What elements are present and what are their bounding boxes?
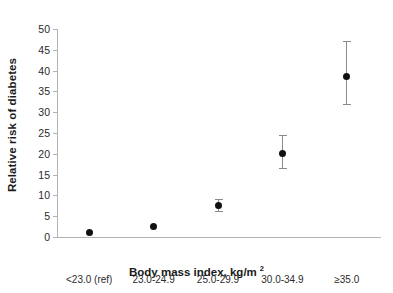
y-axis-title: Relative risk of diabetes (0, 0, 24, 250)
y-axis-tick-label: 20 (38, 149, 50, 160)
error-bar-cap-upper (215, 199, 223, 200)
relative-risk-scatter-chart: Relative risk of diabetes 05101520253035… (0, 0, 393, 293)
y-axis-tick-label: 35 (38, 86, 50, 97)
error-bar-cap-upper (279, 135, 287, 136)
y-axis-tick-label: 15 (38, 169, 50, 180)
y-axis-tick-label: 5 (44, 211, 50, 222)
x-axis-title-text: Body mass index, kg/m (129, 266, 257, 278)
x-axis-title-superscript: 2 (260, 264, 264, 273)
data-point-marker (215, 202, 222, 209)
error-bar-cap-lower (279, 168, 287, 169)
y-axis-tick-mark (53, 133, 57, 134)
data-point-marker (150, 223, 157, 230)
y-axis-tick-label: 30 (38, 107, 50, 118)
y-axis-tick-label: 10 (38, 190, 50, 201)
y-axis-tick-label: 0 (44, 232, 50, 243)
y-axis-tick-label: 45 (38, 45, 50, 56)
y-axis-tick-mark (53, 175, 57, 176)
data-point-marker (343, 73, 350, 80)
data-point-marker (86, 229, 93, 236)
x-axis-title: Body mass index, kg/m2 (0, 264, 393, 278)
y-axis-tick-mark (53, 154, 57, 155)
y-axis-tick-label: 25 (38, 128, 50, 139)
y-axis-tick-mark (53, 50, 57, 51)
y-axis-tick-label: 50 (38, 24, 50, 35)
error-bar-cap-lower (215, 211, 223, 212)
y-axis-tick-mark (53, 29, 57, 30)
y-axis-tick-label: 40 (38, 65, 50, 76)
error-bar-cap-lower (343, 104, 351, 105)
plot-area: 05101520253035404550<23.0 (ref)23.0-24.9… (57, 29, 379, 237)
y-axis-tick-mark (53, 195, 57, 196)
x-axis-line (57, 237, 381, 238)
y-axis-tick-mark (53, 71, 57, 72)
y-axis-tick-mark (53, 237, 57, 238)
y-axis-tick-mark (53, 216, 57, 217)
data-point-marker (279, 150, 286, 157)
y-axis-tick-mark (53, 91, 57, 92)
y-axis-tick-mark (53, 112, 57, 113)
y-axis-title-text: Relative risk of diabetes (6, 58, 18, 192)
error-bar-cap-upper (343, 41, 351, 42)
